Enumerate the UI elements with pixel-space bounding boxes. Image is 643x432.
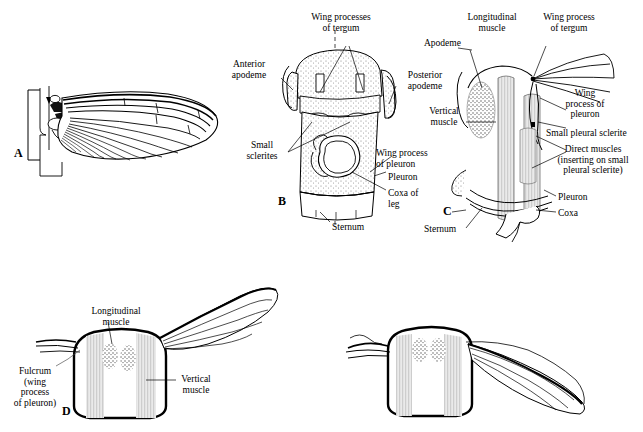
panel-c-plate-label: C — [443, 204, 452, 219]
label-vertical-muscle-c: Vertical muscle — [420, 106, 468, 127]
insect-wing-anatomy-figure: A Wing processes of tergum Anterior apod… — [0, 0, 643, 432]
panel-a-artwork — [28, 86, 218, 176]
label-fulcrum: Fulcrum (wing process of pleuron) — [4, 366, 66, 408]
label-wing-processes-of-tergum-b: Wing processes of tergum — [291, 12, 391, 33]
label-longitudinal-muscle-d: Longitudinal muscle — [80, 306, 152, 327]
panel-b-plate-label: B — [278, 194, 286, 209]
label-sternum-c: Sternum — [424, 224, 456, 235]
panel-a-plate-label: A — [14, 146, 23, 161]
label-pleuron-b: Pleuron — [388, 172, 418, 183]
label-coxa-c: Coxa — [558, 208, 578, 219]
label-anterior-apodeme: Anterior apodeme — [218, 59, 280, 80]
label-vertical-muscle-d: Vertical muscle — [172, 374, 220, 395]
figure-artwork — [0, 0, 643, 432]
label-pleuron-c: Pleuron — [558, 192, 588, 203]
label-sternum-b: Sternum — [332, 222, 364, 233]
label-small-pleural-sclerite: Small pleural sclerite — [546, 128, 627, 139]
label-wing-process-of-pleuron-b: Wing process of pleuron — [376, 148, 450, 169]
label-direct-muscles: Direct muscles (inserting on small pleur… — [546, 144, 640, 176]
label-coxa-of-leg: Coxa of leg — [388, 188, 436, 209]
label-longitudinal-muscle-c: Longitudinal muscle — [460, 12, 524, 33]
panel-d-artwork — [36, 288, 278, 418]
label-wing-process-of-tergum-c: Wing process of tergum — [533, 12, 605, 33]
panel-d-plate-label: D — [62, 404, 71, 419]
label-small-sclerites: Small sclerites — [237, 140, 287, 161]
panel-e-artwork — [346, 327, 585, 416]
label-posterior-apodeme: Posterior apodeme — [396, 70, 454, 91]
label-apodeme-c: Apodeme — [424, 38, 461, 49]
label-wing-process-of-pleuron-c: Wing process of pleuron — [558, 88, 612, 120]
panel-b-artwork — [281, 30, 396, 228]
